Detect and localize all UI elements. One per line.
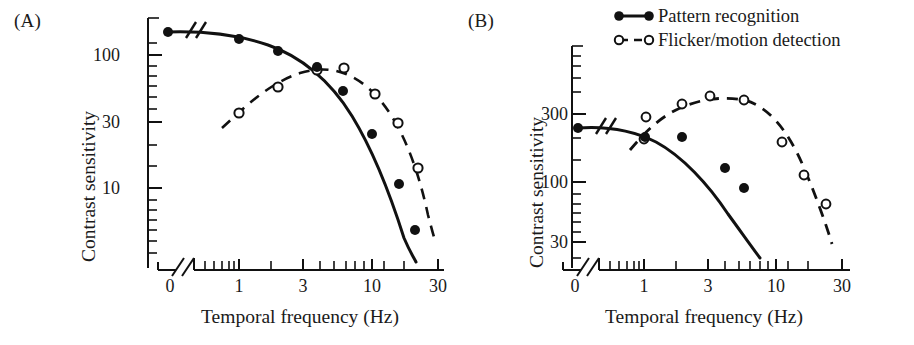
- panel-a-pattern-curve: [168, 32, 416, 262]
- panel-a-plot: [0, 0, 460, 345]
- panel-a-pattern-points: [163, 27, 420, 235]
- panel-b: (B) Contrast sensitivity Pattern recogni…: [460, 0, 914, 345]
- panel-a-flicker-points: [234, 63, 422, 172]
- panel-b-plot: [460, 0, 914, 345]
- panel-a-x-axis-break-icon: [172, 258, 194, 276]
- panel-a-curve-break-icon: [186, 22, 206, 38]
- panel-a-flicker-curve: [222, 69, 436, 243]
- panel-b-x-axis-break-icon: [577, 258, 599, 276]
- panel-b-curve-break-icon: [596, 118, 616, 134]
- panel-b-pattern-points: [573, 123, 749, 193]
- figure-contrast-sensitivity: (A) Contrast sensitivity 100 30 10 0 1 3…: [0, 0, 914, 345]
- panel-b-y-minor-ticks: [572, 46, 583, 258]
- panel-a-y-minor-ticks: [148, 18, 159, 253]
- panel-b-pattern-curve: [578, 128, 760, 258]
- panel-a-x-minor-ticks: [205, 261, 404, 270]
- panel-a: (A) Contrast sensitivity 100 30 10 0 1 3…: [0, 0, 460, 345]
